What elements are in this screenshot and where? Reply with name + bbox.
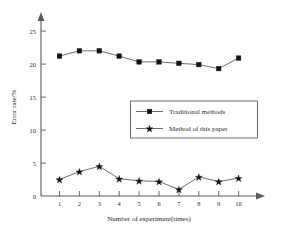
series-line-traditional-methods: [60, 51, 239, 69]
x-tick-label-5: 5: [137, 200, 140, 207]
y-tick-label-10: 10: [30, 127, 37, 134]
y-tick-label-15: 15: [30, 94, 37, 101]
chart-figure: 25 20 15 10 5 0 1 2 3 4 5 6 7 8 9 10 N: [0, 0, 282, 236]
x-tick-label-6: 6: [157, 200, 161, 207]
y-tick-label-20: 20: [30, 61, 37, 68]
x-tick-label-8: 8: [197, 200, 200, 207]
x-axis-title: Number of experiment(times): [107, 215, 191, 223]
x-tick-label-3: 3: [98, 200, 101, 207]
y-tick-label-0: 0: [33, 193, 36, 200]
x-axis-ticks: [60, 191, 239, 196]
chart-plot-area: 25 20 15 10 5 0 1 2 3 4 5 6 7 8 9 10 N: [0, 0, 282, 236]
x-tick-label-1: 1: [58, 200, 61, 207]
series-markers-method-of-this-paper: [56, 163, 242, 193]
x-tick-label-7: 7: [177, 200, 181, 207]
legend-label-method-of-this-paper: Method of this paper: [169, 125, 228, 133]
x-tick-label-2: 2: [78, 200, 81, 207]
x-tick-label-10: 10: [235, 200, 242, 207]
y-tick-label-5: 5: [33, 160, 36, 167]
x-tick-label-4: 4: [118, 200, 122, 207]
x-axis-arrow-icon: [256, 193, 265, 200]
y-axis-ticks: [41, 31, 46, 163]
legend-label-traditional-methods: Traditional methods: [169, 108, 226, 116]
y-axis-title: Error rate/%: [10, 89, 18, 124]
series-line-method-of-this-paper: [60, 166, 239, 189]
y-tick-label-25: 25: [30, 28, 37, 35]
y-axis-arrow-icon: [38, 12, 45, 21]
square-marker-icon: [147, 109, 152, 114]
x-tick-label-9: 9: [217, 200, 220, 207]
chart-legend: Traditional methods Method of this paper: [131, 101, 258, 138]
